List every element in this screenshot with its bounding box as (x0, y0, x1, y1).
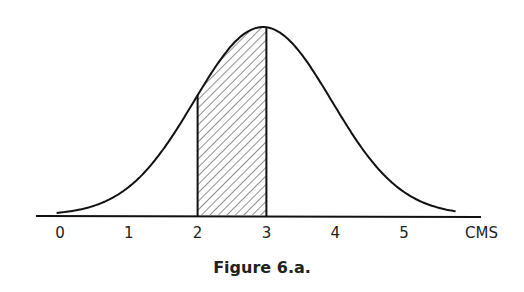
x-tick-label: 1 (124, 224, 134, 242)
shaded-area-2-to-3 (198, 27, 267, 215)
x-tick-label: 0 (55, 224, 65, 242)
x-axis-line (36, 216, 481, 217)
x-tick-label: 2 (193, 224, 203, 242)
x-tick-label: 4 (330, 224, 340, 242)
figure-caption: Figure 6.a. (213, 258, 311, 277)
x-tick-label: 5 (399, 224, 409, 242)
normal-curve-figure: 012345 CMS Figure 6.a. (0, 0, 524, 292)
x-axis-unit-label: CMS (465, 224, 498, 242)
x-axis-tick-labels: 012345 (55, 224, 409, 242)
x-tick-label: 3 (262, 224, 272, 242)
